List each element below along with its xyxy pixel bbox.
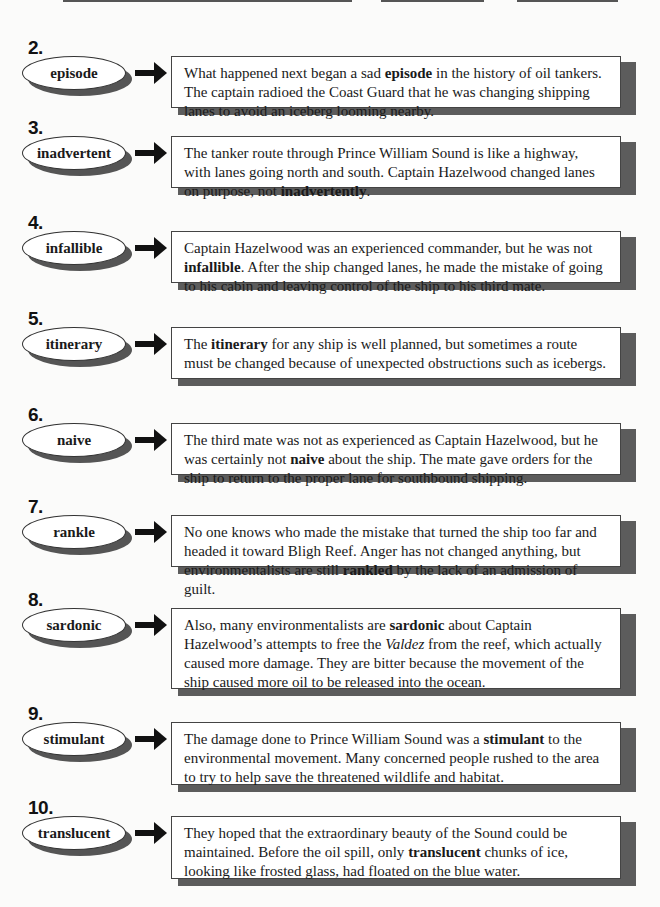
- vocabulary-word: translucent: [22, 816, 126, 850]
- vocabulary-word: inadvertent: [22, 136, 126, 170]
- word-oval: inadvertent: [22, 136, 132, 176]
- vocabulary-word: episode: [22, 56, 126, 90]
- date-blank-line[interactable]: [381, 0, 484, 2]
- sentence-bold-word: infallible: [184, 259, 241, 275]
- vocabulary-item: 5. itinerary The itinerary for any ship …: [0, 308, 660, 390]
- context-sentence-box: What happened next began a sad episode i…: [171, 56, 621, 108]
- context-sentence-box: The third mate was not as experienced as…: [171, 423, 621, 475]
- sentence-text-before: The: [184, 336, 211, 352]
- vocabulary-item: 6. naive The third mate was not as exper…: [0, 404, 660, 486]
- sentence-bold-word: itinerary: [211, 336, 268, 352]
- right-arrow-icon: [135, 822, 167, 844]
- sentence-italic: Valdez: [385, 636, 424, 652]
- vocabulary-word: stimulant: [22, 722, 126, 756]
- class-blank-line[interactable]: [517, 0, 618, 2]
- sentence-bold-word: inadvertently: [281, 183, 367, 199]
- context-sentence-box: Also, many environmentalists are sardoni…: [171, 608, 621, 689]
- right-arrow-icon: [135, 728, 167, 750]
- vocabulary-word: naive: [22, 423, 126, 457]
- vocabulary-item: 2. episode What happened next began a sa…: [0, 37, 660, 119]
- vocabulary-word: infallible: [22, 231, 126, 265]
- word-oval: sardonic: [22, 608, 132, 648]
- sentence-bold-word: translucent: [408, 844, 481, 860]
- sentence-bold-word: naive: [290, 451, 324, 467]
- word-oval: infallible: [22, 231, 132, 271]
- sentence-text-before: Captain Hazelwood was an experienced com…: [184, 240, 592, 256]
- sentence-bold-word: episode: [385, 65, 433, 81]
- word-oval: translucent: [22, 816, 132, 856]
- sentence-text-before: The damage done to Prince William Sound …: [184, 731, 483, 747]
- vocabulary-item: 10. translucent They hoped that the extr…: [0, 797, 660, 890]
- vocabulary-word: itinerary: [22, 327, 126, 361]
- sentence-bold-word: sardonic: [389, 617, 444, 633]
- context-sentence-box: No one knows who made the mistake that t…: [171, 515, 621, 567]
- sentence-text-after: . After the ship changed lanes, he made …: [184, 259, 603, 294]
- right-arrow-icon: [135, 521, 167, 543]
- context-sentence-box: They hoped that the extraordinary beauty…: [171, 816, 621, 879]
- context-sentence-box: The tanker route through Prince William …: [171, 136, 621, 188]
- right-arrow-icon: [135, 333, 167, 355]
- word-oval: rankle: [22, 515, 132, 555]
- word-oval: stimulant: [22, 722, 132, 762]
- sentence-text-after: .: [367, 183, 371, 199]
- vocabulary-item: 3. inadvertent The tanker route through …: [0, 117, 660, 199]
- vocabulary-item: 7. rankle No one knows who made the mist…: [0, 496, 660, 578]
- word-oval: episode: [22, 56, 132, 96]
- right-arrow-icon: [135, 429, 167, 451]
- right-arrow-icon: [135, 237, 167, 259]
- context-sentence-box: The itinerary for any ship is well plann…: [171, 327, 621, 379]
- name-blank-line[interactable]: [63, 0, 352, 2]
- right-arrow-icon: [135, 614, 167, 636]
- right-arrow-icon: [135, 142, 167, 164]
- word-oval: naive: [22, 423, 132, 463]
- sentence-text-before: Also, many environmentalists are: [184, 617, 389, 633]
- sentence-text-before: What happened next began a sad: [184, 65, 385, 81]
- sentence-bold-word: rankled: [343, 562, 393, 578]
- vocabulary-item: 9. stimulant The damage done to Prince W…: [0, 703, 660, 796]
- sentence-bold-word: stimulant: [483, 731, 544, 747]
- context-sentence-box: Captain Hazelwood was an experienced com…: [171, 231, 621, 283]
- context-sentence-box: The damage done to Prince William Sound …: [171, 722, 621, 785]
- vocabulary-item: 4. infallible Captain Hazelwood was an e…: [0, 212, 660, 294]
- word-oval: itinerary: [22, 327, 132, 367]
- vocabulary-word: rankle: [22, 515, 126, 549]
- right-arrow-icon: [135, 62, 167, 84]
- vocabulary-item: 8. sardonic Also, many environmentalists…: [0, 589, 660, 700]
- vocabulary-word: sardonic: [22, 608, 126, 642]
